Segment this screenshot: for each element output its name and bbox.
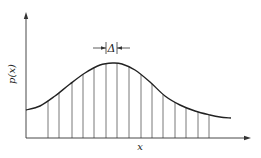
y-axis-arrow-icon — [24, 12, 28, 19]
delta-arrow-icon — [117, 46, 122, 50]
histogram-bins — [48, 63, 209, 138]
x-axis-arrow-icon — [244, 136, 251, 140]
delta-label: Δ — [107, 42, 116, 55]
delta-arrow-icon — [101, 46, 106, 50]
probability-density-diagram: Δ p(x) x — [0, 0, 261, 158]
x-axis-label: x — [137, 141, 143, 152]
y-axis-label: p(x) — [6, 64, 17, 84]
density-curve — [26, 63, 231, 118]
